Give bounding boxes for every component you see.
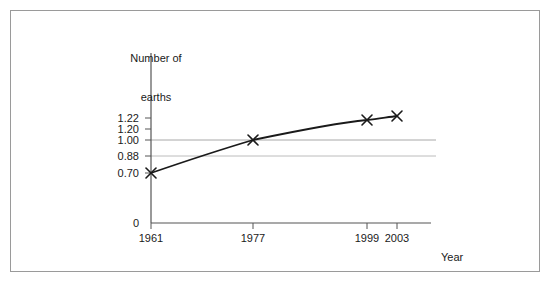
chart-canvas (11, 11, 541, 273)
y-tick-label-0-70: 0.70 (103, 167, 139, 179)
y-tick-label-0-88: 0.88 (103, 150, 139, 162)
chart-frame: Number of earths Year 1.22 1.20 1.00 0.8… (10, 10, 540, 272)
x-tick-label-1977: 1977 (231, 232, 275, 244)
plot-area: Number of earths Year 1.22 1.20 1.00 0.8… (11, 11, 541, 273)
y-tick-label-1-00: 1.00 (103, 134, 139, 146)
x-tick-label-2003: 2003 (375, 232, 419, 244)
y-axis-title-line-1: Number of (121, 52, 191, 65)
x-tick-label-1961: 1961 (129, 232, 173, 244)
y-axis-title-line-2: earths (121, 91, 191, 104)
y-tick-label-zero: 0 (103, 217, 139, 229)
x-axis-title: Year (441, 251, 463, 264)
